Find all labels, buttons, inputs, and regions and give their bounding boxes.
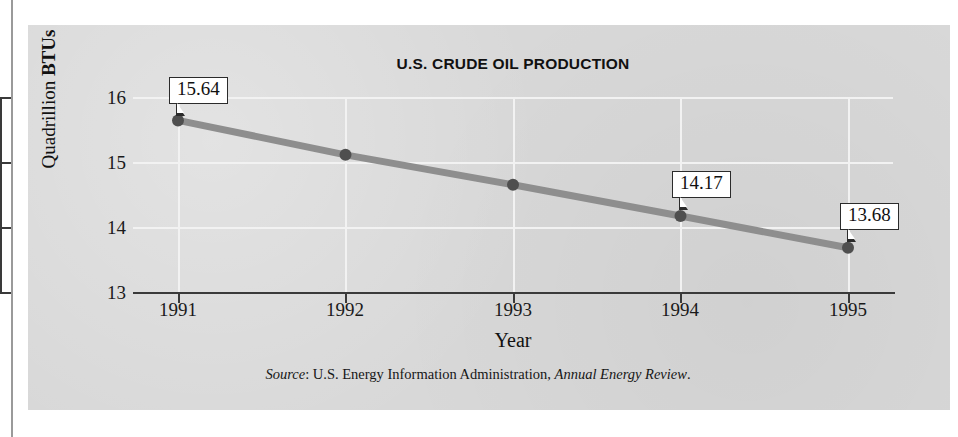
- y-axis-tick: [0, 292, 11, 294]
- y-axis-tick: [0, 227, 11, 229]
- data-callout-value: 13.68: [848, 204, 891, 225]
- source-note: Source: U.S. Energy Information Administ…: [28, 366, 928, 383]
- y-tick-label-14: 14: [92, 218, 126, 237]
- y-tick-label-16: 16: [92, 88, 126, 107]
- source-label: Source: [265, 366, 305, 382]
- callout-tail-fill-icon: [680, 197, 693, 207]
- x-tick-label-1994: 1994: [635, 300, 725, 319]
- figure-root: U.S. CRUDE OIL PRODUCTION 16 15 14 13 19…: [0, 0, 958, 437]
- y-axis-tick: [0, 97, 11, 99]
- x-tick-label-1993: 1993: [468, 300, 558, 319]
- chart-title: U.S. CRUDE OIL PRODUCTION: [133, 55, 893, 73]
- x-axis-line: [133, 292, 895, 294]
- data-callout-1991: 15.64: [169, 77, 228, 104]
- source-organization: U.S. Energy Information Administration,: [313, 366, 555, 382]
- page-edge-rule: [11, 0, 13, 437]
- data-point-1992: [340, 149, 352, 161]
- y-axis-title-prefix: Quadrillion: [38, 76, 59, 168]
- x-tick-label-1995: 1995: [803, 300, 893, 319]
- callout-tail-fill-icon: [177, 103, 190, 113]
- y-axis-title: Quadrillion BTUs: [38, 0, 60, 214]
- data-point-1994: [675, 210, 687, 222]
- y-tick-label-15: 15: [92, 153, 126, 172]
- y-tick-label-13: 13: [92, 283, 126, 302]
- data-callout-value: 15.64: [177, 78, 220, 99]
- x-axis-title: Year: [133, 329, 893, 352]
- y-axis-line: [0, 97, 2, 294]
- data-callout-value: 14.17: [680, 172, 723, 193]
- source-separator: :: [305, 366, 313, 382]
- x-tick-label-1991: 1991: [133, 300, 223, 319]
- data-callout-1995: 13.68: [840, 203, 899, 230]
- callout-tail-fill-icon: [848, 229, 861, 239]
- data-callout-1994: 14.17: [672, 171, 731, 198]
- data-point-1991: [172, 114, 184, 126]
- source-publication: Annual Energy Review: [555, 366, 687, 382]
- data-point-1995: [842, 242, 854, 254]
- y-axis-title-emphasis: BTUs: [38, 30, 59, 76]
- y-axis-tick: [0, 162, 11, 164]
- source-period: .: [687, 366, 691, 382]
- data-point-1993: [507, 179, 519, 191]
- x-tick-label-1992: 1992: [300, 300, 390, 319]
- data-series: [133, 97, 893, 292]
